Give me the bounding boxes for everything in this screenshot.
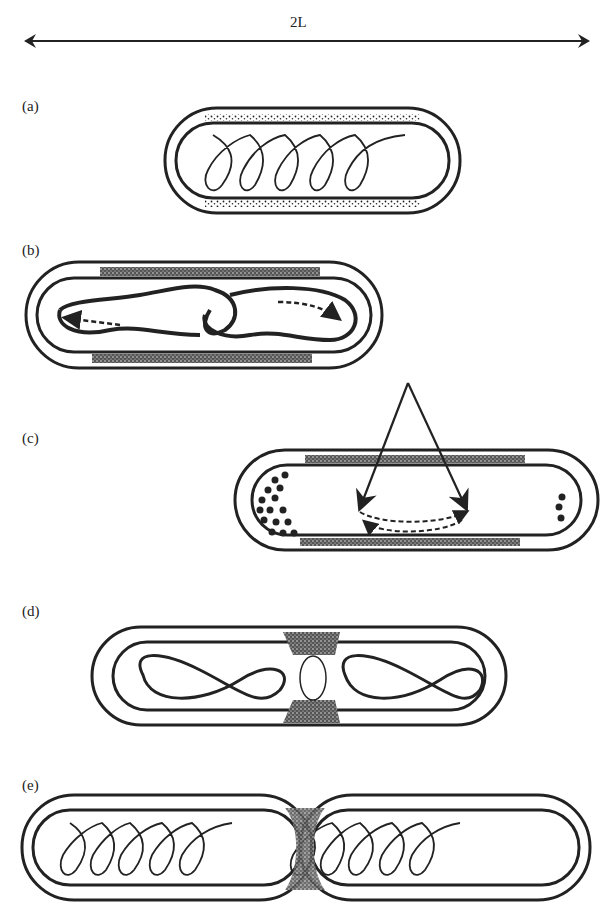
panel-label-a: (a) xyxy=(22,98,39,115)
panel-a-cell xyxy=(165,108,460,213)
panel-b-cell xyxy=(26,262,382,368)
panel-label-d: (d) xyxy=(22,603,40,620)
scale-label: 2L xyxy=(290,14,307,31)
panel-label-c: (c) xyxy=(22,430,39,447)
panel-label-b: (b) xyxy=(22,242,40,259)
panel-label-e: (e) xyxy=(22,777,39,794)
panel-e-cell-left xyxy=(22,795,312,900)
panel-e-cell-right xyxy=(291,795,590,900)
panel-c-cell xyxy=(235,383,598,550)
panel-d-cell xyxy=(92,627,506,725)
bacterial-division-diagram xyxy=(0,0,610,923)
length-scale-arrow xyxy=(24,34,590,48)
